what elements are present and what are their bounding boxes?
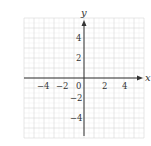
x-tick-label: 4 [122,81,127,91]
y-axis-label: y [80,7,87,18]
coordinate-plane: x y −4 −2 0 2 4 4 2 −2 −4 [0,0,151,146]
y-tick-label: 4 [76,33,81,43]
y-tick-label: 2 [76,53,81,63]
x-tick-label: 0 [76,81,81,91]
y-tick-label: −4 [70,113,83,123]
x-tick-label: −4 [37,81,50,91]
x-tick-label: −2 [56,81,69,91]
x-axis-arrow-icon [137,76,143,81]
x-tick-label: 2 [102,81,107,91]
y-tick-label: −2 [70,93,83,103]
x-axis-label: x [145,72,151,83]
